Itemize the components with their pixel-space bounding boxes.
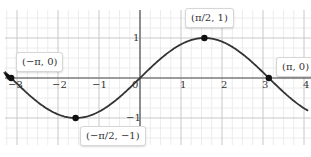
x-tick-label: 2	[221, 80, 227, 90]
y-tick-label: 1	[133, 33, 139, 43]
y-tick-label: −1	[126, 113, 141, 123]
x-tick-label: 3	[262, 80, 268, 90]
point-label-pi: (π, 0)	[276, 57, 311, 77]
point-marker	[201, 35, 207, 41]
x-tick-label: 0	[132, 80, 138, 90]
x-tick-label: 4	[303, 80, 309, 90]
x-tick-label: −1	[92, 80, 107, 90]
point-label-neg-half-pi: (−π/2, −1)	[80, 126, 146, 146]
point-label-neg-pi: (−π, 0)	[16, 52, 63, 72]
point-label-half-pi: (π/2, 1)	[185, 8, 234, 28]
x-tick-label: −2	[52, 80, 67, 90]
x-tick-label: 1	[180, 80, 186, 90]
point-marker	[72, 115, 78, 121]
x-tick-label: −3	[8, 80, 23, 90]
